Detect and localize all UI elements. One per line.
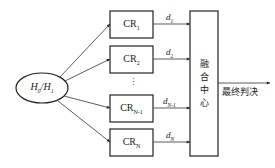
final-decision-label: 最终判决 xyxy=(222,88,258,97)
ellipsis: ⋮ xyxy=(129,78,138,87)
fusion-char: 合 xyxy=(190,71,218,84)
fusion-center-label: 融 合 中 心 xyxy=(190,58,218,110)
cr-subscript: N xyxy=(136,143,140,149)
cr-subscript: 2 xyxy=(137,60,140,66)
hypothesis-label: H0/H1 xyxy=(17,82,67,94)
dn-label: dN xyxy=(166,131,174,142)
h1-subscript: 1 xyxy=(51,88,54,94)
cr-text: CR xyxy=(123,136,136,147)
crn1-label: CRN-1 xyxy=(110,103,153,115)
d-subscript: 1 xyxy=(171,18,174,24)
d-subscript: N-1 xyxy=(168,102,176,108)
d-subscript: N xyxy=(171,136,175,142)
fusion-char: 融 xyxy=(190,58,218,71)
cr-text: CR xyxy=(120,102,133,113)
fusion-char: 中 xyxy=(190,84,218,97)
arrow-to-cr1 xyxy=(60,24,110,77)
dn1-label: dN-1 xyxy=(163,97,176,108)
d-subscript: 2 xyxy=(171,53,174,59)
cr-text: CR xyxy=(123,18,136,29)
cr2-label: CR2 xyxy=(110,54,153,66)
cr-subscript: N-1 xyxy=(134,109,143,115)
d1-label: d1 xyxy=(166,13,173,24)
cr-text: CR xyxy=(123,53,136,64)
h-symbol: H xyxy=(43,81,50,92)
h-symbol: H xyxy=(30,81,37,92)
arrow-to-cr2 xyxy=(65,59,110,81)
crn-label: CRN xyxy=(110,137,153,149)
cr1-label: CR1 xyxy=(110,19,153,31)
arrow-to-crn xyxy=(58,101,110,142)
d2-label: d2 xyxy=(166,48,173,59)
arrow-to-crn1 xyxy=(64,96,110,108)
fusion-char: 心 xyxy=(190,97,218,110)
cr-subscript: 1 xyxy=(137,25,140,31)
